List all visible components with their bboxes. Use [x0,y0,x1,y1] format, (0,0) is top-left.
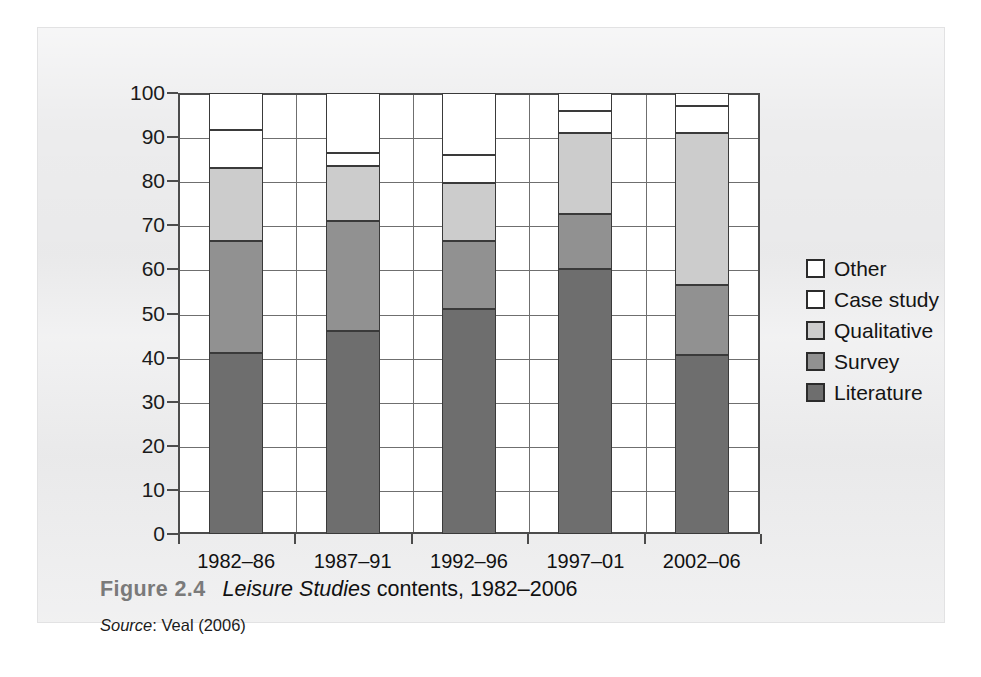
x-axis-tick-label: 1997–01 [546,550,624,573]
legend-label: Case study [834,289,939,310]
legend-label: Other [834,258,887,279]
figure-caption: Figure 2.4Leisure Studies contents, 1982… [100,579,578,601]
stacked-bar [558,93,612,534]
legend-item-literature: Literature [806,380,939,405]
y-axis-tick-label: 60 [113,257,165,281]
y-axis-tick-mark [167,224,178,226]
legend-swatch-icon [806,259,825,278]
caption-figure-number: Figure 2.4 [100,577,206,601]
legend-item-other: Other [806,256,939,281]
x-axis-tick-label: 2002–06 [663,550,741,573]
legend-label: Survey [834,351,899,372]
y-axis-tick-label: 90 [113,125,165,149]
caption-rest: contents, 1982–2006 [371,577,578,601]
bar-segment-case-study [442,155,496,184]
bar-segment-literature [326,331,380,534]
source-label: Source [100,616,152,634]
figure-source: Source: Veal (2006) [100,617,246,634]
y-axis-tick-mark [167,357,178,359]
bar-segment-literature [442,309,496,534]
bar-segment-literature [675,355,729,534]
bar-segment-qualitative [442,183,496,240]
bar-segment-qualitative [675,133,729,285]
stacked-bar [442,93,496,534]
legend-swatch-icon [806,352,825,371]
stacked-bar [209,93,263,534]
y-axis-tick-label: 0 [113,522,165,546]
x-axis-tick-mark [760,534,762,544]
bar-segment-qualitative [326,166,380,221]
legend-swatch-icon [806,290,825,309]
y-axis-tick-mark [167,445,178,447]
bar-segment-survey [326,221,380,331]
legend-swatch-icon [806,383,825,402]
chart-legend: OtherCase studyQualitativeSurveyLiteratu… [806,256,939,405]
bar-segment-qualitative [209,168,263,241]
page-root: 0102030405060708090100 1982–861987–91199… [0,0,981,677]
bar-segment-qualitative [558,133,612,215]
bar-segment-literature [558,269,612,534]
y-axis-tick-label: 30 [113,390,165,414]
y-axis-tick-mark [167,180,178,182]
x-axis-tick-mark [527,534,529,544]
y-axis-tick-mark [167,489,178,491]
gridline-vertical [646,95,647,532]
y-axis-tick-mark [167,533,178,535]
bar-segment-other [558,93,612,111]
bar-segment-survey [675,285,729,356]
y-axis-tick-label: 20 [113,434,165,458]
legend-swatch-icon [806,321,825,340]
y-axis-tick-mark [167,92,178,94]
bar-segment-other [442,93,496,155]
bar-segment-case-study [326,153,380,166]
bar-segment-other [209,93,263,130]
y-axis-tick-label: 40 [113,346,165,370]
y-axis-tick-label: 70 [113,213,165,237]
legend-label: Literature [834,382,923,403]
y-axis-tick-label: 50 [113,302,165,326]
caption-journal-title: Leisure Studies [223,577,371,601]
gridline-vertical [296,95,297,532]
bar-segment-other [326,93,380,153]
figure-panel: 0102030405060708090100 1982–861987–91199… [38,28,944,622]
bar-segment-survey [209,241,263,353]
stacked-bar [326,93,380,534]
y-axis-tick-label: 10 [113,478,165,502]
x-axis-tick-mark [294,534,296,544]
legend-item-survey: Survey [806,349,939,374]
gridline-vertical [529,95,530,532]
bar-segment-case-study [209,130,263,167]
y-axis-tick-label: 80 [113,169,165,193]
y-axis-tick-label: 100 [113,81,165,105]
bar-segment-survey [442,241,496,309]
y-axis-tick-mark [167,268,178,270]
legend-item-qualitative: Qualitative [806,318,939,343]
bar-segment-literature [209,353,263,534]
x-axis-tick-mark [411,534,413,544]
bar-segment-other [675,93,729,106]
gridline-vertical [413,95,414,532]
bar-segment-case-study [558,111,612,133]
y-axis-tick-mark [167,401,178,403]
x-axis-tick-label: 1992–96 [430,550,508,573]
legend-item-case-study: Case study [806,287,939,312]
legend-label: Qualitative [834,320,933,341]
bar-segment-case-study [675,106,729,132]
y-axis-tick-mark [167,136,178,138]
x-axis-tick-label: 1987–91 [314,550,392,573]
bar-segment-survey [558,214,612,269]
source-text: : Veal (2006) [152,616,246,634]
y-axis-tick-mark [167,313,178,315]
x-axis-tick-mark [178,534,180,544]
x-axis-tick-label: 1982–86 [197,550,275,573]
stacked-bar [675,93,729,534]
x-axis-tick-mark [644,534,646,544]
